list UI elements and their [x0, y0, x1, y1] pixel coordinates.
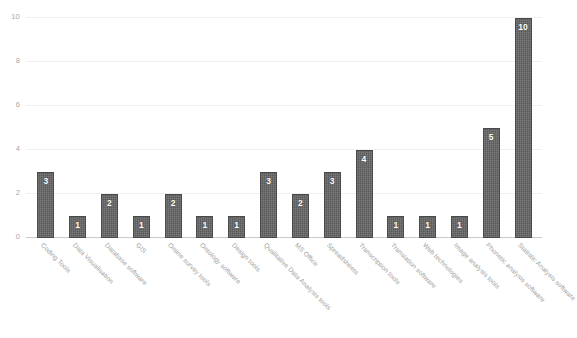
bar-value-label: 2	[107, 199, 112, 237]
x-label-slot: Online survey tools	[157, 240, 189, 336]
x-axis-category-labels: Coding ToolsData VisualisationDatabase s…	[26, 240, 542, 336]
bar-slot: 1	[125, 18, 157, 238]
bar-value-label: 1	[203, 221, 208, 237]
bar-slot: 1	[221, 18, 253, 238]
bar-value-label: 1	[139, 221, 144, 237]
bar[interactable]: 4	[356, 150, 373, 238]
bar[interactable]: 5	[483, 128, 500, 238]
bar-slot: 4	[348, 18, 380, 238]
plot-area: 0246810 31212113234111510	[26, 18, 542, 238]
bar[interactable]: 1	[133, 216, 150, 238]
bar-slot: 3	[316, 18, 348, 238]
bar-slot: 1	[189, 18, 221, 238]
bar[interactable]: 1	[451, 216, 468, 238]
bar-slot: 1	[380, 18, 412, 238]
bar-value-label: 2	[171, 199, 176, 237]
x-label-slot: MS Office	[285, 240, 317, 336]
x-label-slot: Spreadsheets	[316, 240, 348, 336]
bar-value-label: 1	[393, 221, 398, 237]
bar[interactable]: 1	[228, 216, 245, 238]
bar-slot: 3	[253, 18, 285, 238]
bar[interactable]: 1	[419, 216, 436, 238]
bar-slot: 1	[412, 18, 444, 238]
x-label-slot: Transcription tools	[348, 240, 380, 336]
x-label-slot: GIS	[125, 240, 157, 336]
bar-value-label: 4	[362, 155, 367, 237]
y-axis-tick-label: 8	[16, 57, 20, 65]
bar[interactable]: 3	[324, 172, 341, 238]
x-label-slot: Design tools	[221, 240, 253, 336]
y-axis-tick-label: 2	[16, 189, 20, 197]
x-label-slot: Data Visualisation	[62, 240, 94, 336]
bar[interactable]: 3	[260, 172, 277, 238]
x-label-slot: Web technologies	[412, 240, 444, 336]
bar[interactable]: 2	[101, 194, 118, 238]
bar-slot: 5	[475, 18, 507, 238]
bar[interactable]: 2	[165, 194, 182, 238]
bar-slot: 10	[507, 18, 539, 238]
bar-slot: 1	[444, 18, 476, 238]
y-axis-tick-label: 10	[11, 13, 20, 21]
x-label-slot: Phonetic analysis software	[475, 240, 507, 336]
x-label-slot: Statistic Analysis software	[507, 240, 539, 336]
bar-value-label: 1	[234, 221, 239, 237]
bar-value-label: 1	[457, 221, 462, 237]
bar-value-label: 3	[43, 177, 48, 237]
x-label-slot: Translation software	[380, 240, 412, 336]
x-label-slot: Coding Tools	[30, 240, 62, 336]
bar-value-label: 3	[330, 177, 335, 237]
bar-slot: 2	[285, 18, 317, 238]
bar-value-label: 1	[425, 221, 430, 237]
bar-value-label: 3	[266, 177, 271, 237]
x-axis-category-label: GIS	[135, 242, 148, 255]
x-axis-category-label: Statistic Analysis software	[516, 242, 576, 302]
bar-value-label: 5	[489, 133, 494, 237]
x-label-slot: Database software	[94, 240, 126, 336]
y-axis-tick-label: 0	[16, 233, 20, 241]
bar-value-label: 1	[75, 221, 80, 237]
y-axis-tick-label: 6	[16, 101, 20, 109]
x-label-slot: Qualitative Data Analysis tools	[253, 240, 285, 336]
bar[interactable]: 1	[196, 216, 213, 238]
y-axis-tick-label: 4	[16, 145, 20, 153]
bar[interactable]: 2	[292, 194, 309, 238]
bar[interactable]: 1	[69, 216, 86, 238]
bar-series: 31212113234111510	[26, 18, 542, 238]
bar[interactable]: 10	[515, 18, 532, 238]
bar[interactable]: 3	[37, 172, 54, 238]
bar-slot: 1	[62, 18, 94, 238]
bar-slot: 2	[94, 18, 126, 238]
bar-value-label: 10	[518, 23, 528, 237]
x-label-slot: Ontology software	[189, 240, 221, 336]
bar[interactable]: 1	[387, 216, 404, 238]
bar-slot: 3	[30, 18, 62, 238]
bar-value-label: 2	[298, 199, 303, 237]
bar-slot: 2	[157, 18, 189, 238]
x-label-slot: Image analysis tools	[444, 240, 476, 336]
